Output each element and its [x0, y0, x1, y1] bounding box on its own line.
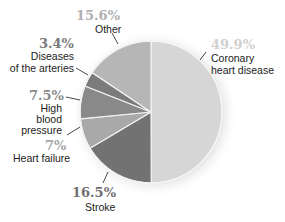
pct-label-coronary: 49.9%: [211, 38, 255, 51]
slice-label-hbp-line3: pressure: [10, 124, 62, 136]
slice-label-arteries-line1: Diseases: [4, 50, 74, 62]
slice-label-arteries-line2: of the arteries: [4, 62, 74, 74]
pct-label-other: 15.6%: [76, 9, 120, 22]
slice-label-coronary-line2: heart disease: [211, 64, 274, 76]
slice-label-other: Other: [95, 23, 121, 35]
slice-label-coronary-line1: Coronary: [211, 52, 254, 64]
pct-label-stroke: 16.5%: [72, 186, 116, 199]
pct-label-hbp: 7.5%: [29, 89, 64, 102]
slice-label-heart-failure: Heart failure: [13, 152, 70, 164]
slice-label-stroke: Stroke: [85, 201, 115, 213]
pct-label-heart-failure: 7%: [45, 139, 66, 152]
pct-label-arteries: 3.4%: [39, 37, 74, 50]
